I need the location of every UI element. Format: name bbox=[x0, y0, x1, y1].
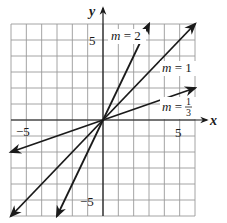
x-tick-5: 5 bbox=[175, 125, 182, 140]
coordinate-plane: y x −5 5 5 −5 m = 2 m = 1 m = 1 3 bbox=[0, 0, 227, 223]
y-axis-label: y bbox=[87, 4, 96, 19]
y-tick-neg5: −5 bbox=[80, 194, 94, 209]
label-m13-denominator: 3 bbox=[186, 107, 191, 118]
x-axis-label: x bbox=[209, 113, 217, 128]
label-m13: m = bbox=[162, 99, 182, 114]
x-tick-neg5: −5 bbox=[16, 124, 30, 139]
label-m1: m = 1 bbox=[162, 60, 192, 75]
label-m13-numerator: 1 bbox=[186, 96, 191, 107]
y-tick-5: 5 bbox=[89, 33, 96, 48]
label-m2: m = 2 bbox=[111, 28, 141, 43]
slope-lines-graph: y x −5 5 5 −5 m = 2 m = 1 m = 1 3 bbox=[0, 0, 227, 223]
